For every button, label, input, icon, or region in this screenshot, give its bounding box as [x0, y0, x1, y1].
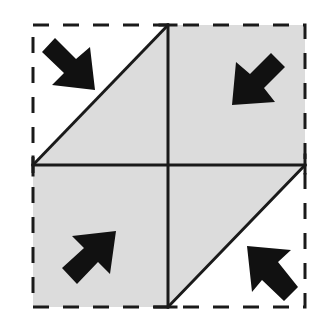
arrow-up-left-icon [247, 246, 298, 301]
folding-diagram [0, 0, 313, 332]
arrow-down-right-icon [42, 38, 95, 90]
